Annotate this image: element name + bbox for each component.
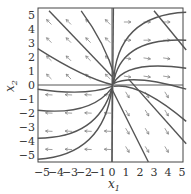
x-tick-label: 4 <box>165 166 172 179</box>
trajectory-curve <box>49 11 112 77</box>
field-arrow <box>65 93 72 96</box>
y-tick-label: −5 <box>19 149 35 162</box>
trajectory-curve <box>38 86 112 92</box>
field-arrow <box>105 38 110 43</box>
field-arrow <box>65 130 72 133</box>
field-arrow <box>85 130 92 133</box>
y-axis-label: x2 <box>3 80 19 92</box>
field-arrow <box>86 56 91 61</box>
field-arrow <box>66 74 71 79</box>
field-arrow <box>46 112 53 115</box>
y-tick-label: 2 <box>28 51 35 64</box>
field-arrow <box>144 39 151 42</box>
field-arrow <box>165 146 169 152</box>
field-arrow <box>126 128 130 134</box>
field-arrow <box>66 38 71 43</box>
field-arrow <box>124 21 131 24</box>
x-tick-label: 3 <box>151 166 158 179</box>
phase-portrait-chart: −5−4−3−2−1012345 543210−1−2−3−4−5 x1 x2 <box>0 0 191 194</box>
field-arrow <box>126 146 130 152</box>
y-tick-label: −1 <box>19 93 35 106</box>
field-arrow <box>126 92 130 98</box>
field-arrow <box>47 74 52 79</box>
y-tick-label: 4 <box>28 23 35 36</box>
field-arrow <box>47 38 52 43</box>
trajectory-curve <box>129 79 186 143</box>
trajectory-curve <box>112 89 148 162</box>
field-arrow <box>165 110 169 116</box>
x-tick-label: −1 <box>90 166 106 179</box>
field-arrow <box>65 112 72 115</box>
field-arrow <box>85 148 92 151</box>
field-arrow <box>46 148 53 151</box>
y-tick-labels: 543210−1−2−3−4−5 <box>19 9 35 162</box>
y-tick-label: 3 <box>28 37 35 50</box>
field-arrow <box>66 56 71 61</box>
x-tick-label: 1 <box>123 166 130 179</box>
y-tick-label: −4 <box>19 135 35 148</box>
x-axis-label: x1 <box>108 177 120 193</box>
field-arrow <box>65 148 72 151</box>
field-arrow <box>46 93 53 96</box>
y-tick-label: −3 <box>19 121 35 134</box>
field-arrow <box>86 38 91 43</box>
field-arrow <box>145 128 149 134</box>
field-arrow <box>104 130 111 133</box>
field-arrow <box>124 75 131 78</box>
field-arrow <box>163 75 170 78</box>
field-arrow <box>105 20 110 25</box>
y-tick-label: 0 <box>28 79 35 92</box>
field-arrow <box>144 75 151 78</box>
field-arrow <box>47 20 52 25</box>
y-tick-label: −2 <box>19 107 35 120</box>
x-tick-label: 5 <box>179 166 186 179</box>
field-arrow <box>66 20 71 25</box>
field-arrow <box>104 148 111 151</box>
field-arrow <box>85 112 92 115</box>
field-arrow <box>145 146 149 152</box>
trajectory-curve <box>154 11 186 50</box>
field-arrow <box>163 57 170 60</box>
field-arrow <box>46 130 53 133</box>
field-arrow <box>165 128 169 134</box>
x-tick-label: 2 <box>137 166 144 179</box>
y-tick-label: 1 <box>28 65 35 78</box>
field-arrow <box>165 92 169 98</box>
y-tick-label: 5 <box>28 9 35 22</box>
field-arrow <box>126 110 130 116</box>
field-arrow <box>144 57 151 60</box>
direction-field-arrows <box>46 20 171 153</box>
trajectory-curve <box>113 80 186 89</box>
field-arrow <box>85 93 92 96</box>
field-arrow <box>145 110 149 116</box>
